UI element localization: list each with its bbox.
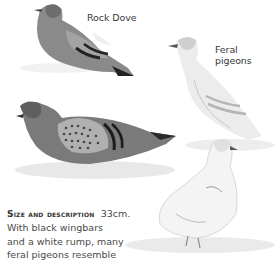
description-line: and a white rump, many (7, 235, 157, 248)
description-first-line: Size and description 33cm. (7, 207, 157, 221)
field-guide-page: Rock Dove Feral pigeons Size and descrip… (0, 0, 275, 260)
feral-pigeons-label: Feral pigeons (215, 44, 275, 66)
species-description: Size and description 33cm. With black wi… (7, 207, 157, 260)
description-heading: Size and description (7, 209, 95, 219)
rock-dove-label: Rock Dove (87, 12, 136, 23)
feral-pigeon-white-bird (159, 139, 238, 248)
description-line: With black wingbars (7, 221, 157, 234)
size-value: 33cm. (101, 208, 131, 219)
feral-pigeon-chequered-bird (16, 101, 176, 164)
description-line: feral pigeons resemble (7, 248, 157, 260)
